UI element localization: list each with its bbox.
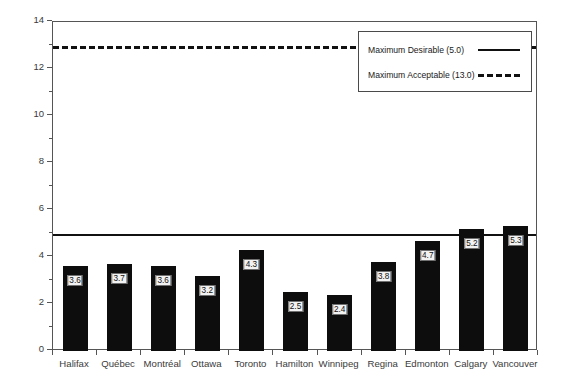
legend-label: Maximum Acceptable (13.0)	[359, 70, 476, 80]
x-axis-label-ottawa: Ottawa	[191, 358, 221, 369]
x-tick-mark	[317, 350, 318, 355]
y-tick-label: 6	[39, 202, 44, 213]
bar-value-label: 2.5	[288, 301, 303, 312]
x-axis-label-toronto: Toronto	[234, 358, 266, 369]
y-tick-label: 14	[33, 14, 44, 25]
bar-value-label: 3.6	[156, 275, 171, 286]
x-axis-label-winnipeg: Winnipeg	[319, 358, 359, 369]
x-tick-mark	[493, 350, 494, 355]
x-tick-mark	[361, 350, 362, 355]
x-axis-label-montral: Montréal	[144, 358, 181, 369]
legend-swatch	[476, 49, 522, 52]
bar-value-label: 2.4	[332, 304, 347, 315]
bar-value-label: 3.6	[67, 275, 82, 286]
x-axis-label-vancouver: Vancouver	[492, 358, 537, 369]
bar-value-label: 3.8	[376, 271, 391, 282]
x-tick-mark	[272, 350, 273, 355]
x-axis-label-halifax: Halifax	[59, 358, 88, 369]
x-tick-mark	[537, 350, 538, 355]
bar-value-label: 5.2	[464, 238, 479, 249]
solid-line-icon	[478, 49, 520, 52]
bar-value-label: 5.3	[508, 235, 523, 246]
legend-item: Maximum Desirable (5.0)	[359, 38, 531, 62]
bar-value-label: 3.7	[111, 273, 126, 284]
legend-swatch	[476, 74, 522, 77]
x-axis-label-qubec: Québec	[101, 358, 135, 369]
x-axis-label-calgary: Calgary	[454, 358, 487, 369]
x-tick-mark	[228, 350, 229, 355]
x-tick-mark	[184, 350, 185, 355]
x-axis-label-regina: Regina	[367, 358, 397, 369]
x-axis-label-edmonton: Edmonton	[405, 358, 449, 369]
legend-label: Maximum Desirable (5.0)	[359, 45, 476, 55]
x-tick-mark	[449, 350, 450, 355]
y-tick-label: 10	[33, 108, 44, 119]
y-tick-label: 12	[33, 61, 44, 72]
x-tick-mark	[52, 350, 53, 355]
dashed-line-icon	[478, 74, 520, 77]
bar-chart: Parts per Million 02468101214 3.63.73.63…	[0, 0, 570, 391]
bar-value-label: 3.2	[200, 285, 215, 296]
chart-legend: Maximum Desirable (5.0)Maximum Acceptabl…	[358, 31, 532, 92]
y-tick-label: 0	[39, 343, 44, 354]
x-axis-label-hamilton: Hamilton	[276, 358, 314, 369]
y-tick-label: 4	[39, 249, 44, 260]
x-tick-mark	[405, 350, 406, 355]
y-tick-label: 2	[39, 296, 44, 307]
bar-value-label: 4.7	[420, 250, 435, 261]
bar-value-label: 4.3	[244, 259, 259, 270]
legend-item: Maximum Acceptable (13.0)	[359, 63, 531, 87]
y-tick-label: 8	[39, 155, 44, 166]
x-tick-mark	[96, 350, 97, 355]
x-tick-mark	[140, 350, 141, 355]
